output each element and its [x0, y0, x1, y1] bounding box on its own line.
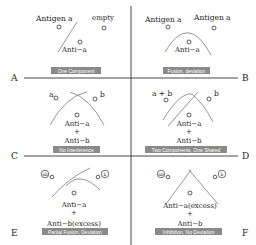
- antigen-right-label: b: [221, 172, 224, 177]
- antibody-well: [72, 191, 76, 195]
- immunodiffusion-diagram: A B C D E F Antigen a empty Anti−a One C…: [0, 0, 256, 245]
- antibody-well: [187, 40, 191, 44]
- antibody-well: [75, 113, 79, 117]
- precipitin-line-right: [189, 170, 218, 204]
- caption: Partial Fusion, Deviation: [48, 229, 102, 235]
- caption: Two Components, One Shared: [152, 147, 221, 153]
- antibody-well: [78, 40, 82, 44]
- panel-A: Antigen a empty Anti−a One Component: [35, 14, 114, 74]
- antigen-right-well: [96, 175, 100, 179]
- antibody-plus: +: [74, 128, 80, 136]
- caption: Inhibition, No Deviation: [163, 229, 215, 235]
- caption: No Interference: [59, 147, 94, 153]
- panel-F: ab b Anti−a(excess) + Anti−b Inhibition,…: [155, 170, 226, 235]
- antigen-left-label: a: [49, 90, 54, 99]
- antigen-right-well: [207, 97, 211, 101]
- antigen-left-label: Antigen a: [144, 15, 182, 24]
- panel-B: Antigen a Antigen a Anti−a Fusion, devia…: [144, 13, 231, 74]
- antibody-well: [188, 191, 192, 195]
- antibody-plus: +: [186, 128, 192, 136]
- antigen-right-label: Antigen a: [193, 13, 231, 22]
- antigen-left-well: [164, 98, 168, 102]
- antibody-label-2: Anti−b(excess): [46, 220, 101, 228]
- antibody-plus: +: [187, 210, 193, 218]
- caption: Fusion, deviation: [168, 68, 206, 74]
- antigen-left-well: [166, 175, 170, 179]
- antibody-label-2: Anti−b: [176, 137, 202, 145]
- panel-C: a b Anti−a + Anti−b No Interference: [49, 90, 105, 153]
- antibody-label: Anti−a: [174, 46, 200, 54]
- antigen-left-well: [54, 96, 58, 100]
- antibody-label: Anti−a: [61, 46, 87, 54]
- antigen-left-well: [50, 175, 54, 179]
- antibody-label-1: Anti−a: [176, 120, 202, 128]
- antigen-right-well: [213, 175, 217, 179]
- antigen-left-label: a + b: [152, 89, 173, 98]
- antibody-plus: +: [71, 209, 77, 217]
- antibody-label-2: Anti−b: [64, 137, 90, 145]
- antigen-left-label: ab: [158, 172, 164, 177]
- antigen-right-well: [93, 97, 97, 101]
- antigen-right-label: b: [104, 172, 107, 177]
- antibody-well: [187, 113, 191, 117]
- antibody-label-2: Anti−b: [177, 220, 203, 228]
- antigen-right-label: b: [100, 90, 105, 99]
- antibody-label-1: Anti−a(excess): [162, 202, 217, 210]
- precipitin-line-left: [166, 170, 191, 204]
- antigen-left-well: [57, 25, 61, 29]
- label-A: A: [10, 73, 18, 83]
- label-F: F: [242, 228, 248, 238]
- antigen-right-well: [212, 26, 216, 30]
- caption: One Component: [58, 68, 95, 74]
- label-C: C: [11, 151, 18, 161]
- antigen-left-well: [166, 25, 170, 29]
- antigen-right-label: b: [214, 89, 219, 98]
- antigen-right-label: empty: [92, 14, 114, 22]
- antigen-left-label: ab: [42, 172, 48, 177]
- antigen-right-well: [102, 26, 106, 30]
- precipitin-arc: [66, 179, 100, 190]
- antibody-label-1: Anti−a: [64, 120, 90, 128]
- panel-E: ab b Anti−a + Anti−b(excess) Partial Fus…: [41, 168, 109, 235]
- panel-D: a + b b Anti−a + Anti−b Two Components, …: [145, 89, 227, 153]
- precipitin-line-straight: [52, 168, 90, 197]
- label-B: B: [242, 73, 249, 83]
- antibody-label-1: Anti−a: [61, 201, 87, 209]
- label-D: D: [242, 151, 249, 161]
- label-E: E: [11, 228, 18, 238]
- precipitin-arc-outer: [163, 94, 213, 122]
- antigen-left-label: Antigen a: [35, 14, 73, 23]
